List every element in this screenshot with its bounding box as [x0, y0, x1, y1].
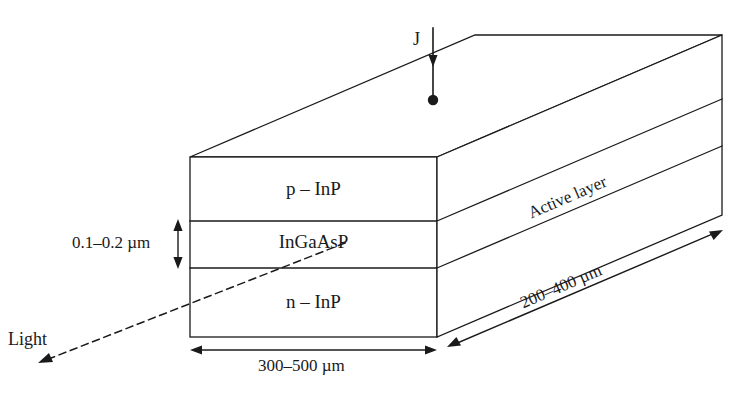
light-ray-arrow-head	[38, 353, 53, 363]
width-arrow-head-left	[190, 345, 202, 354]
layer-label-ingaasp: InGaAsP	[190, 232, 437, 251]
thickness-arrow-head-top	[173, 219, 182, 231]
current-density-label: J	[413, 30, 420, 48]
depth-arrow-head-front	[447, 337, 461, 347]
layer-label-p-inp: p – InP	[190, 179, 437, 198]
depth-arrow-head-back	[709, 230, 723, 240]
current-contact-dot	[428, 95, 438, 105]
width-arrow-head-right	[425, 345, 437, 354]
thickness-arrow-head-bottom	[173, 257, 182, 269]
diagram-canvas	[0, 0, 739, 398]
light-output-label: Light	[8, 330, 47, 348]
active-layer-thickness-label: 0.1–0.2 µm	[72, 234, 150, 251]
laser-diode-diagram: J p – InP InGaAsP n – InP 0.1–0.2 µm 300…	[0, 0, 739, 398]
width-dimension-label: 300–500 µm	[258, 357, 345, 374]
layer-label-n-inp: n – InP	[190, 292, 437, 311]
